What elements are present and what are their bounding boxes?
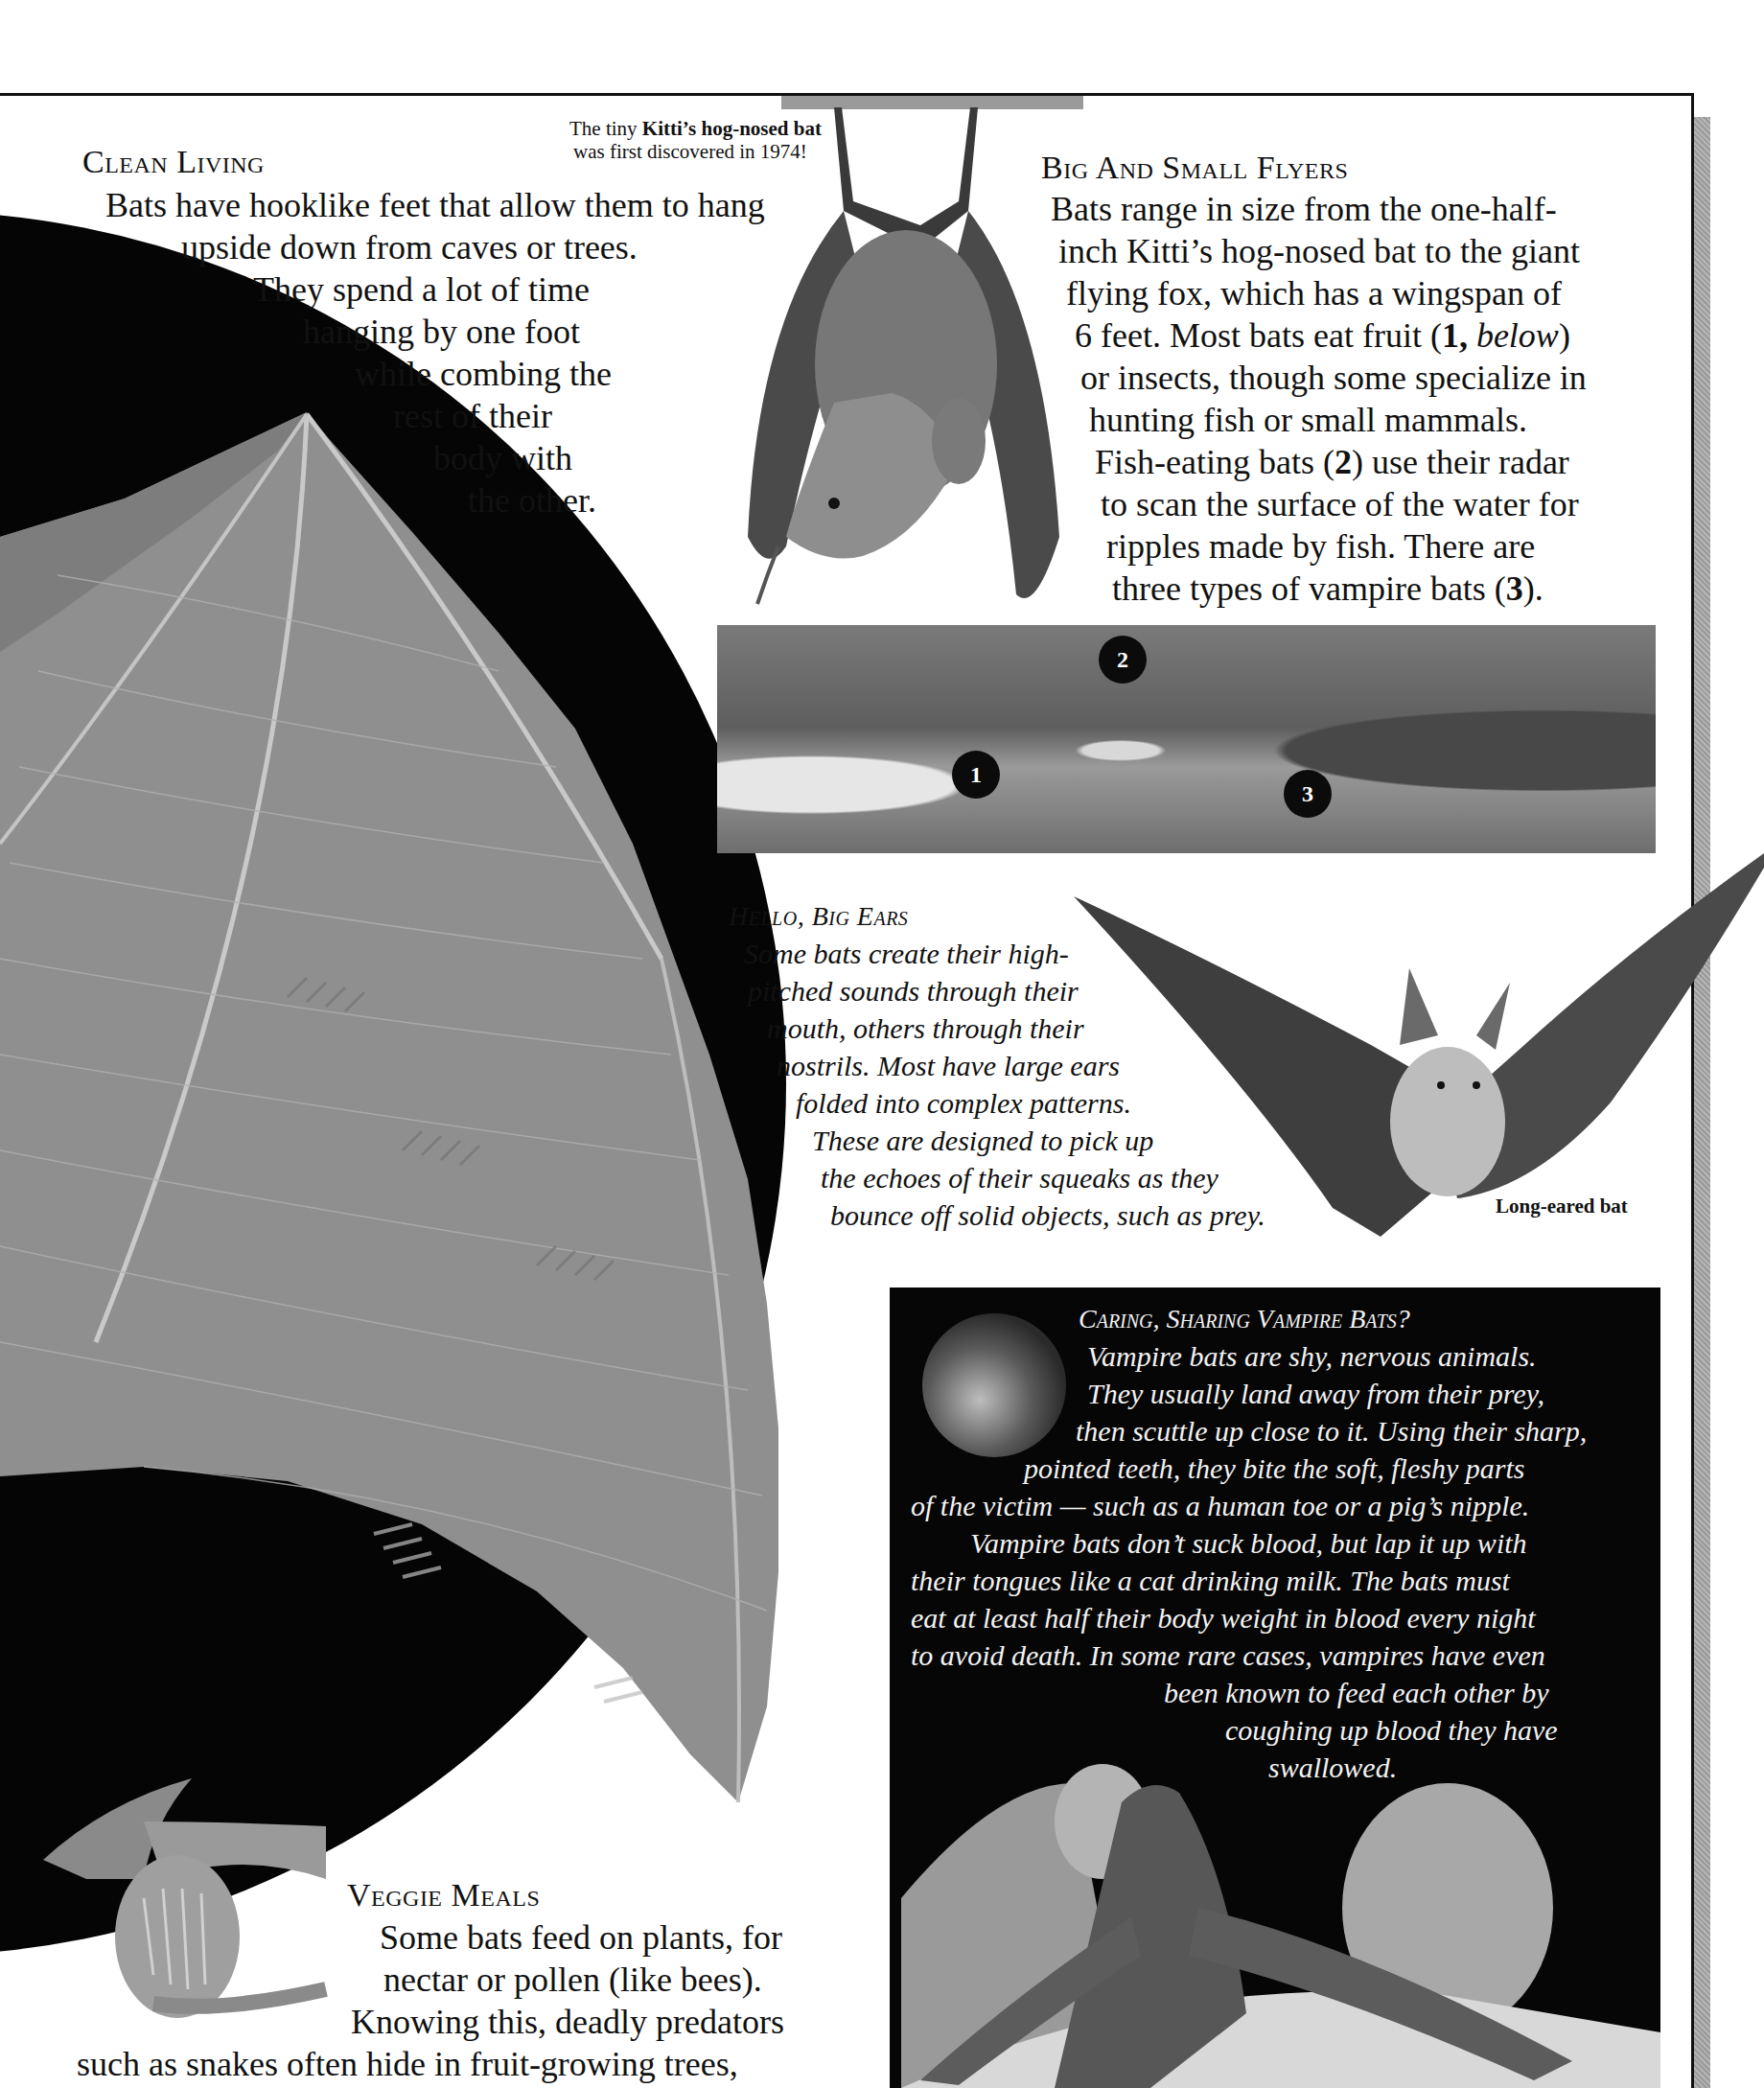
clean-living-line: They spend a lot of time	[253, 272, 590, 307]
clean-living-heading: Clean Living	[82, 146, 265, 178]
veggie-line: nectar or pollen (like bees).	[383, 1962, 762, 1997]
big-ears-line: folded into complex patterns.	[796, 1089, 1131, 1118]
veggie-meals-heading: Veggie Meals	[347, 1879, 540, 1912]
big-ears-line: Some bats create their high-	[744, 940, 1069, 968]
big-ears-line: bounce off solid objects, such as prey.	[830, 1201, 1265, 1230]
long-eared-bat-caption: Long-eared bat	[1496, 1196, 1628, 1217]
hello-big-ears-heading: Hello, Big Ears	[729, 903, 908, 930]
vampire-line: then scuttle up close to it. Using their…	[1076, 1417, 1587, 1446]
flyers-line: flying fox, which has a wingspan of	[1066, 276, 1562, 311]
veggie-line: such as snakes often hide in fruit-growi…	[77, 2047, 738, 2081]
kitti-caption-line-2: was first discovered in 1974!	[573, 142, 807, 162]
big-ears-line: the echoes of their squeaks as they	[821, 1164, 1219, 1193]
flyers-line: Fish-eating bats (2) use their radar	[1095, 445, 1569, 479]
clean-living-line: rest of their	[393, 399, 552, 433]
vampire-line: to avoid death. In some rare cases, vamp…	[911, 1641, 1545, 1670]
vampire-line: eat at least half their body weight in b…	[911, 1604, 1536, 1633]
vampire-line: pointed teeth, they bite the soft, flesh…	[1024, 1454, 1524, 1483]
flyers-line: Bats range in size from the one-half-	[1051, 192, 1557, 226]
big-ears-line: These are designed to pick up	[812, 1126, 1153, 1155]
flyers-line: inch Kitti’s hog-nosed bat to the giant	[1058, 234, 1580, 268]
veggie-line: Knowing this, deadly predators	[351, 2005, 784, 2039]
big-ears-line: pitched sounds through their	[748, 977, 1079, 1006]
vampire-line: their tongues like a cat drinking milk. …	[911, 1566, 1510, 1595]
flyers-line: to scan the surface of the water for	[1101, 487, 1579, 522]
kitti-caption-line-1: The tiny Kitti’s hog-nosed bat	[569, 119, 822, 139]
vampire-line: coughing up blood they have	[1225, 1716, 1558, 1745]
vampire-line: of the victim — such as a human toe or a…	[911, 1492, 1529, 1520]
vampire-line: They usually land away from their prey,	[1087, 1380, 1544, 1408]
vampire-heading: Caring, Sharing Vampire Bats?	[1079, 1306, 1410, 1333]
big-ears-line: nostrils. Most have large ears	[777, 1052, 1120, 1080]
vampire-line: Vampire bats don’t suck blood, but lap i…	[970, 1529, 1527, 1558]
clean-living-line: Bats have hooklike feet that allow them …	[105, 188, 765, 222]
flyers-line: or insects, though some specialize in	[1080, 360, 1587, 395]
clean-living-line: while combing the	[355, 357, 612, 391]
clean-living-line: the other.	[468, 483, 596, 518]
vampire-line: Vampire bats are shy, nervous animals.	[1087, 1342, 1537, 1371]
flyers-line: ripples made by fish. There are	[1106, 529, 1535, 564]
big-ears-line: mouth, others through their	[767, 1014, 1084, 1043]
veggie-line: Some bats feed on plants, for	[380, 1920, 782, 1955]
nectar-bat-illustration	[0, 0, 1764, 2088]
vampire-line: swallowed.	[1268, 1753, 1397, 1782]
flyers-line: hunting fish or small mammals.	[1089, 403, 1527, 437]
clean-living-line: upside down from caves or trees.	[181, 230, 638, 265]
vampire-line: been known to feed each other by	[1164, 1679, 1549, 1707]
clean-living-line: body with	[433, 441, 572, 476]
big-small-flyers-heading: Big And Small Flyers	[1041, 151, 1348, 184]
clean-living-line: hanging by one foot	[303, 314, 580, 349]
flyers-line: three types of vampire bats (3).	[1112, 571, 1544, 606]
flyers-line: 6 feet. Most bats eat fruit (1, below)	[1075, 318, 1570, 353]
